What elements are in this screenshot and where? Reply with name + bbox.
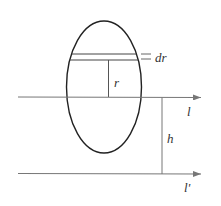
label-l-prime: l'	[184, 181, 190, 194]
diagram-canvas: dr r l h l'	[0, 0, 221, 206]
axis-l	[18, 97, 201, 98]
label-l: l	[187, 105, 191, 118]
label-h: h	[167, 132, 174, 145]
diagram-svg	[0, 0, 221, 206]
ellipse-region	[67, 21, 142, 153]
label-r: r	[114, 76, 119, 89]
label-dr: dr	[155, 51, 167, 64]
axis-l-prime	[18, 174, 201, 175]
